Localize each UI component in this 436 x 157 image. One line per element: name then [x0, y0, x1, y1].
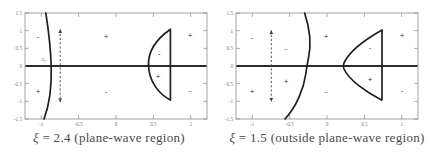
y-tick-label: 0.5: [227, 45, 234, 51]
sign-plus: +: [324, 32, 329, 41]
y-tick-label: 0.5: [16, 45, 23, 51]
right-plot-area: 1.5 1 0.5 0 -0.5 -1 -1.5 -1 -0.5 0 0.5 1: [218, 0, 436, 132]
caption-value: = 1.5 (outside plane-wave region): [235, 130, 424, 145]
left-plot-area: 1.5 1 0.5 0 -0.5 -1 -1.5 -1 -0.5 0 0.5 1: [0, 0, 218, 132]
y-tick-label: 0: [230, 63, 233, 69]
sign-minus: -: [189, 86, 192, 95]
sign-plus: +: [188, 31, 193, 40]
x-tick-label: -1: [39, 121, 44, 127]
y-tick-label: 1: [19, 28, 22, 34]
y-tick-label: -1.5: [14, 116, 23, 122]
sign-minus: -: [158, 49, 161, 58]
x-tick-label: -0.5: [74, 121, 83, 127]
left-plot-svg: 1.5 1 0.5 0 -0.5 -1 -1.5 -1 -0.5 0 0.5 1: [0, 0, 218, 132]
left-panel-caption: ξ = 2.4 (plane-wave region): [0, 130, 218, 146]
sign-plus: +: [156, 72, 161, 81]
sign-plus: +: [368, 75, 373, 84]
y-tick-label: 1: [230, 28, 233, 34]
y-tick-labels: 1.5 1 0.5 0 -0.5 -1 -1.5: [225, 10, 234, 122]
sign-minus: -: [105, 87, 108, 96]
x-tick-label: 0.5: [150, 121, 157, 127]
sign-plus: +: [104, 32, 109, 41]
x-tick-label: -1: [250, 121, 255, 127]
sign-plus: +: [250, 87, 255, 96]
x-tick-label: 0.5: [361, 121, 368, 127]
x-tick-label: 0: [326, 121, 329, 127]
y-tick-label: 0: [19, 63, 22, 69]
sign-minus: -: [369, 43, 372, 52]
y-tick-label: -1: [229, 98, 234, 104]
sign-minus: -: [37, 32, 40, 41]
caption-value: = 2.4 (plane-wave region): [39, 130, 185, 145]
right-plot-svg: 1.5 1 0.5 0 -0.5 -1 -1.5 -1 -0.5 0 0.5 1: [218, 0, 436, 132]
sign-plus: +: [400, 31, 405, 40]
x-tick-label: -0.5: [285, 121, 294, 127]
y-tick-label: -1: [18, 98, 23, 104]
figure-container: 1.5 1 0.5 0 -0.5 -1 -1.5 -1 -0.5 0 0.5 1: [0, 0, 436, 157]
sign-minus: -: [285, 44, 288, 53]
x-tick-label: 1: [189, 121, 192, 127]
y-tick-label: 1.5: [227, 10, 234, 16]
y-tick-label: -0.5: [14, 81, 23, 87]
sign-plus: +: [284, 77, 289, 86]
left-panel: 1.5 1 0.5 0 -0.5 -1 -1.5 -1 -0.5 0 0.5 1: [0, 0, 218, 157]
y-tick-labels: 1.5 1 0.5 0 -0.5 -1 -1.5: [14, 10, 23, 122]
y-tick-label: -0.5: [225, 81, 234, 87]
y-tick-label: -1.5: [225, 116, 234, 122]
x-tick-labels: -1 -0.5 0 0.5 1: [250, 121, 403, 127]
x-tick-label: 1: [400, 121, 403, 127]
point-label-x0: x₀: [41, 56, 46, 62]
x-tick-labels: -1 -0.5 0 0.5 1: [39, 121, 192, 127]
sign-minus: -: [251, 33, 254, 42]
right-panel: 1.5 1 0.5 0 -0.5 -1 -1.5 -1 -0.5 0 0.5 1: [218, 0, 436, 157]
y-tick-label: 1.5: [16, 10, 23, 16]
sign-minus: -: [401, 86, 404, 95]
sign-plus: +: [36, 87, 41, 96]
sign-minus: -: [325, 87, 328, 96]
x-tick-label: 0: [115, 121, 118, 127]
right-panel-caption: ξ = 1.5 (outside plane-wave region): [218, 130, 436, 146]
